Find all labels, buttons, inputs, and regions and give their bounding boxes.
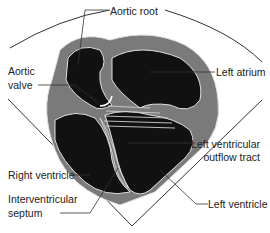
label-right-ventricle: Right ventricle: [8, 169, 75, 181]
label-ivs-2: septum: [8, 207, 42, 219]
label-ivs-1: Interventricular: [8, 193, 77, 205]
label-aortic-valve-2: valve: [8, 79, 33, 91]
label-lvot-1: Left ventricular: [191, 138, 260, 150]
label-aortic-root: Aortic root: [110, 5, 158, 17]
label-left-atrium: Left atrium: [216, 66, 266, 78]
label-lvot-2: outflow tract: [203, 151, 260, 163]
label-left-ventricle: Left ventricle: [208, 198, 268, 210]
label-aortic-valve-1: Aortic: [8, 65, 35, 77]
